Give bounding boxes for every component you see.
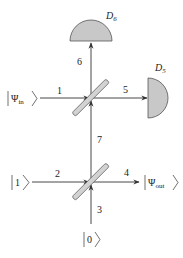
detector-d5-label: D5 (154, 62, 166, 75)
beam-label-4: 4 (124, 167, 129, 178)
detector-d5-dome (148, 78, 168, 118)
beam-label-5: 5 (123, 84, 128, 95)
beam-label-1: 1 (57, 85, 62, 96)
detector-d6: D6 (70, 10, 117, 41)
svg-text:Ψout: Ψout (148, 177, 164, 190)
ket-zero: 0 (84, 232, 100, 247)
beam-label-3: 3 (97, 204, 102, 215)
svg-text:1: 1 (15, 177, 20, 188)
detector-d6-dome (70, 20, 112, 41)
detector-d6-label: D6 (105, 10, 117, 23)
ket-psi-in: Ψin (8, 91, 37, 106)
beam-label-6: 6 (77, 56, 82, 67)
detector-d5: D5 (148, 62, 168, 118)
svg-text:0: 0 (87, 234, 92, 245)
ket-psi-out: Ψout (145, 175, 178, 190)
ket-one: 1 (12, 175, 29, 190)
svg-text:Ψin: Ψin (11, 93, 24, 106)
interferometer-diagram: D6 D5 1 2 3 4 5 6 7 Ψin 1 Ψout 0 (0, 0, 183, 258)
beam-label-2: 2 (55, 168, 60, 179)
beam-label-7: 7 (97, 134, 102, 145)
